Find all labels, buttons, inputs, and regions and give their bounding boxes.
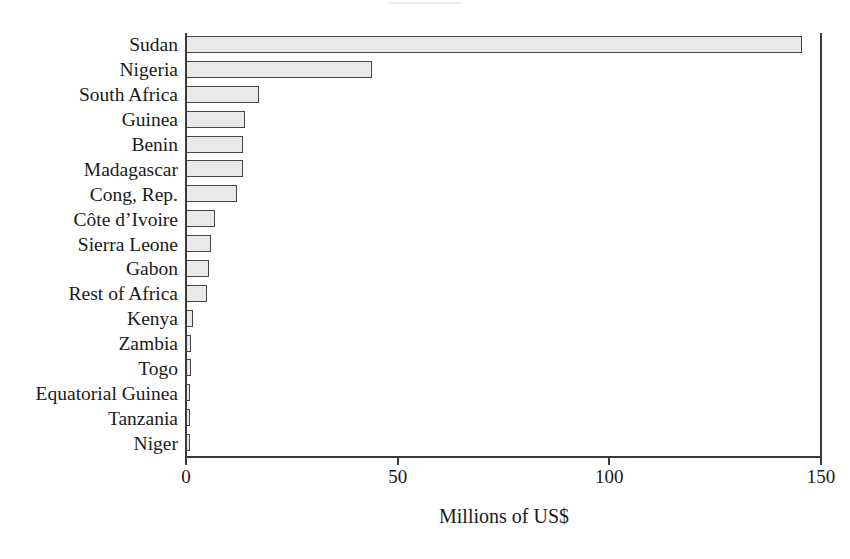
- y-axis-category-label: Madagascar: [0, 159, 178, 181]
- y-axis-category-label: Rest of Africa: [0, 283, 178, 305]
- bar-row[interactable]: [186, 58, 821, 82]
- bar[interactable]: [186, 86, 259, 103]
- x-axis-tick-label: 50: [388, 466, 407, 488]
- y-axis-category-label: Côte d’Ivoire: [0, 209, 178, 231]
- bar[interactable]: [186, 111, 245, 128]
- y-axis-category-label: Cong, Rep.: [0, 184, 178, 206]
- y-axis-category-label: South Africa: [0, 84, 178, 106]
- cropped-title-remnant: ᵩᵩᵩᵩᵩᵩᵩᵩᵩᵩᵩᵩᵩᵩ: [0, 0, 850, 4]
- x-axis-title: Millions of US$: [186, 505, 822, 528]
- bar-row[interactable]: [186, 282, 821, 306]
- y-axis-category-label: Sierra Leone: [0, 234, 178, 256]
- plot-frame-right-line: [820, 33, 822, 458]
- bar[interactable]: [186, 235, 211, 252]
- x-axis-tick-mark: [608, 456, 610, 465]
- bar[interactable]: [186, 260, 209, 277]
- bar-row[interactable]: [186, 257, 821, 281]
- bar-row[interactable]: [186, 157, 821, 181]
- plot-area: [186, 33, 821, 456]
- y-axis-category-label: Equatorial Guinea: [0, 383, 178, 405]
- bar-row[interactable]: [186, 33, 821, 57]
- y-axis-category-label: Niger: [0, 433, 178, 455]
- y-axis-category-label: Togo: [0, 358, 178, 380]
- bar-row[interactable]: [186, 381, 821, 405]
- bar[interactable]: [186, 160, 243, 177]
- x-axis-tick-label: 0: [181, 466, 191, 488]
- bar-row[interactable]: [186, 232, 821, 256]
- bar-row[interactable]: [186, 133, 821, 157]
- y-axis-category-label: Kenya: [0, 308, 178, 330]
- bar-row[interactable]: [186, 83, 821, 107]
- bar[interactable]: [186, 61, 372, 78]
- bar[interactable]: [186, 210, 215, 227]
- bar[interactable]: [186, 285, 207, 302]
- x-axis-tick-mark: [820, 456, 822, 465]
- bar-chart-figure: ᵩᵩᵩᵩᵩᵩᵩᵩᵩᵩᵩᵩᵩᵩ SudanNigeriaSouth AfricaG…: [0, 0, 850, 559]
- y-axis-category-label: Gabon: [0, 258, 178, 280]
- y-axis-category-label: Guinea: [0, 109, 178, 131]
- y-axis-category-label: Sudan: [0, 34, 178, 56]
- x-axis-line: [186, 456, 822, 458]
- bar-row[interactable]: [186, 207, 821, 231]
- bar-row[interactable]: [186, 356, 821, 380]
- bar-row[interactable]: [186, 431, 821, 455]
- y-axis-category-labels: SudanNigeriaSouth AfricaGuineaBeninMadag…: [0, 33, 178, 456]
- y-axis-line: [185, 33, 187, 458]
- bar-row[interactable]: [186, 307, 821, 331]
- bar-row[interactable]: [186, 332, 821, 356]
- y-axis-category-label: Nigeria: [0, 59, 178, 81]
- bar-row[interactable]: [186, 406, 821, 430]
- y-axis-category-label: Benin: [0, 134, 178, 156]
- bar[interactable]: [186, 36, 802, 53]
- bar[interactable]: [186, 136, 243, 153]
- y-axis-category-label: Zambia: [0, 333, 178, 355]
- bar-row[interactable]: [186, 182, 821, 206]
- x-axis-tick-label: 100: [595, 466, 624, 488]
- bar-row[interactable]: [186, 108, 821, 132]
- bar[interactable]: [186, 185, 237, 202]
- y-axis-category-label: Tanzania: [0, 408, 178, 430]
- x-axis-tick-mark: [185, 456, 187, 465]
- bar[interactable]: [186, 310, 193, 327]
- x-axis-tick-label: 150: [807, 466, 836, 488]
- x-axis-tick-mark: [397, 456, 399, 465]
